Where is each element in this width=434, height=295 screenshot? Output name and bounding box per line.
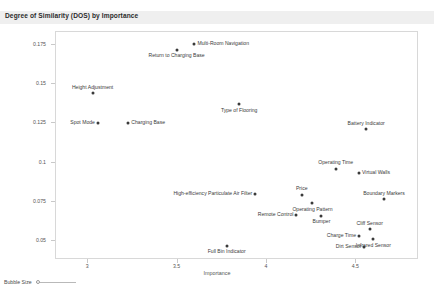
y-tick-mark bbox=[51, 44, 55, 45]
y-tick-mark bbox=[51, 83, 55, 84]
x-tick-mark bbox=[266, 259, 267, 263]
data-point-label: Spot Mode bbox=[70, 120, 95, 125]
y-tick-mark bbox=[51, 201, 55, 202]
bubble-size-label: Bubble Size bbox=[4, 279, 32, 285]
y-tick-label: 0.125 bbox=[12, 119, 46, 125]
x-tick-label: 3.5 bbox=[165, 263, 189, 269]
data-point[interactable] bbox=[365, 128, 368, 131]
data-point-label: Multi-Room Navigation bbox=[197, 41, 249, 46]
x-tick-label: 4 bbox=[254, 263, 278, 269]
y-tick-label: 0.05 bbox=[12, 237, 46, 243]
data-point-label: Operating Time bbox=[318, 160, 353, 165]
y-tick-label: 0.1 bbox=[12, 159, 46, 165]
data-point[interactable] bbox=[127, 122, 130, 125]
data-point-label: Operating Pattern bbox=[292, 207, 332, 212]
y-tick-label: 0.075 bbox=[12, 198, 46, 204]
bubble-size-slider[interactable] bbox=[36, 279, 76, 285]
data-point[interactable] bbox=[225, 244, 228, 247]
data-point-label: Charge Time bbox=[327, 233, 356, 238]
data-point[interactable] bbox=[357, 234, 360, 237]
y-tick-mark bbox=[51, 162, 55, 163]
data-point[interactable] bbox=[295, 213, 298, 216]
x-tick-label: 3 bbox=[75, 263, 99, 269]
data-point[interactable] bbox=[300, 193, 303, 196]
data-point[interactable] bbox=[96, 121, 99, 124]
x-axis-label: Importance bbox=[0, 270, 434, 276]
data-point[interactable] bbox=[372, 238, 375, 241]
data-point-label: Remote Control bbox=[258, 212, 294, 217]
y-tick-label: 0.15 bbox=[12, 80, 46, 86]
data-point[interactable] bbox=[238, 103, 241, 106]
data-point-label: Charging Base bbox=[131, 121, 165, 126]
data-point-label: Return to Charging Base bbox=[149, 53, 205, 58]
y-tick-mark bbox=[51, 240, 55, 241]
page-title: Degree of Similarity (DOS) by Importance bbox=[5, 12, 138, 19]
data-point[interactable] bbox=[175, 48, 178, 51]
data-point-label: Virtual Walls bbox=[362, 170, 390, 175]
data-point[interactable] bbox=[368, 228, 371, 231]
data-point[interactable] bbox=[357, 171, 360, 174]
data-point-label: Type of Flooring bbox=[221, 108, 258, 113]
data-point[interactable] bbox=[334, 167, 337, 170]
data-point-label: Battery Indicator bbox=[348, 121, 385, 126]
x-tick-mark bbox=[87, 259, 88, 263]
x-tick-label: 4.5 bbox=[343, 263, 367, 269]
data-point[interactable] bbox=[320, 214, 323, 217]
data-point-label: Dirt Sensor bbox=[336, 245, 361, 250]
data-point[interactable] bbox=[254, 192, 257, 195]
data-point[interactable] bbox=[311, 202, 314, 205]
data-point-label: Cliff Sensor bbox=[357, 221, 383, 226]
y-tick-label: 0.175 bbox=[12, 41, 46, 47]
data-point[interactable] bbox=[193, 42, 196, 45]
data-point-label: Price bbox=[296, 186, 308, 191]
data-point[interactable] bbox=[383, 198, 386, 201]
data-point-label: Boundary Markers bbox=[363, 191, 405, 196]
x-tick-mark bbox=[355, 259, 356, 263]
data-point-label: Full Bin Indicator bbox=[208, 249, 246, 254]
data-point[interactable] bbox=[363, 246, 366, 249]
bubble-size-legend: Bubble Size bbox=[4, 279, 76, 285]
slider-track bbox=[36, 282, 76, 283]
y-tick-mark bbox=[51, 122, 55, 123]
data-point[interactable] bbox=[91, 92, 94, 95]
x-tick-mark bbox=[177, 259, 178, 263]
slider-knob[interactable] bbox=[36, 280, 40, 284]
data-point-label: Bumper bbox=[313, 219, 331, 224]
data-point-label: Height Adjustment bbox=[72, 85, 113, 90]
data-point-label: High-efficiency Particulate Air Filter bbox=[173, 191, 252, 196]
